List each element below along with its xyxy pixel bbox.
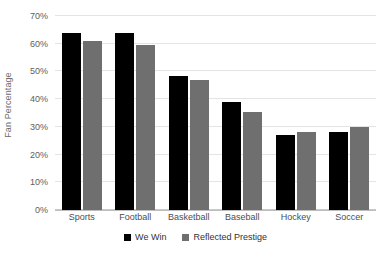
x-axis-line	[55, 210, 376, 211]
y-axis-title-text: Fan Percentage	[3, 72, 13, 137]
legend-label: Reflected Prestige	[193, 232, 267, 242]
plot-area	[55, 16, 376, 210]
legend-swatch-icon	[124, 234, 131, 241]
bar	[115, 33, 134, 210]
legend-entry: We Win	[124, 232, 166, 242]
x-axis-tick-label: Soccer	[323, 212, 377, 230]
bar-chart: Fan Percentage 0%10%20%30%40%50%60%70% S…	[0, 0, 391, 258]
x-axis-tick-label: Hockey	[269, 212, 323, 230]
y-axis-tick-label: 60%	[30, 39, 48, 49]
legend-swatch-icon	[182, 234, 189, 241]
y-axis-tick-label: 20%	[30, 150, 48, 160]
x-axis-tick-label: Sports	[55, 212, 109, 230]
bars-layer	[55, 16, 376, 210]
y-axis-tick-label: 40%	[30, 94, 48, 104]
y-axis-tick-labels: 0%10%20%30%40%50%60%70%	[16, 16, 52, 210]
bar	[276, 135, 295, 210]
y-axis-tick-label: 0%	[35, 205, 48, 215]
bar-group	[109, 16, 163, 210]
x-axis-tick-label: Baseball	[216, 212, 270, 230]
bar	[190, 80, 209, 210]
bar-group	[216, 16, 270, 210]
bar-group	[55, 16, 109, 210]
chart-legend: We WinReflected Prestige	[0, 232, 391, 242]
bar	[83, 41, 102, 210]
bar-group	[162, 16, 216, 210]
bar-group	[269, 16, 323, 210]
bar-group	[323, 16, 377, 210]
y-axis-title: Fan Percentage	[0, 0, 16, 210]
y-axis-tick-label: 70%	[30, 11, 48, 21]
y-axis-tick-label: 30%	[30, 122, 48, 132]
x-axis-tick-label: Football	[109, 212, 163, 230]
x-axis-tick-labels: SportsFootballBasketballBaseballHockeySo…	[55, 212, 376, 230]
bar	[350, 127, 369, 210]
bar	[329, 132, 348, 210]
bar	[243, 112, 262, 210]
bar	[136, 45, 155, 210]
legend-label: We Win	[135, 232, 166, 242]
legend-entry: Reflected Prestige	[182, 232, 267, 242]
x-axis-tick-label: Basketball	[162, 212, 216, 230]
bar	[169, 76, 188, 210]
bar	[297, 132, 316, 210]
y-axis-tick-label: 10%	[30, 177, 48, 187]
bar	[222, 102, 241, 210]
bar	[62, 33, 81, 210]
y-axis-tick-label: 50%	[30, 66, 48, 76]
